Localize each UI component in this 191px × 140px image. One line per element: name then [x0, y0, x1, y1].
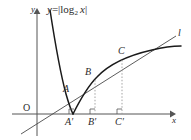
point-label-B-prime: B′: [88, 117, 96, 127]
equation-abs-close: |: [85, 3, 87, 15]
equation-base: 2: [74, 9, 78, 17]
origin-label: O: [23, 103, 30, 113]
point-label-C-prime: C′: [115, 117, 124, 127]
point-label-A: A: [63, 84, 69, 94]
y-axis-label: y: [31, 5, 35, 14]
equation-log: log: [60, 3, 74, 15]
curve-left-branch: [50, 10, 73, 114]
point-label-C: C: [118, 46, 125, 56]
x-axis-label: x: [172, 116, 176, 125]
line-l-label: l: [178, 28, 181, 38]
line-l: [21, 36, 176, 134]
point-label-A-prime: A′: [65, 117, 73, 127]
equation-label: y=|log2 x|: [47, 4, 87, 17]
curve-right-branch: [73, 46, 181, 114]
right-angle-marker-C: [117, 109, 122, 114]
point-label-B: B: [85, 67, 91, 77]
right-angle-marker-B: [90, 109, 95, 114]
math-figure: y=|log2 x| y x O l A B C A′ B′ C′: [0, 0, 191, 140]
